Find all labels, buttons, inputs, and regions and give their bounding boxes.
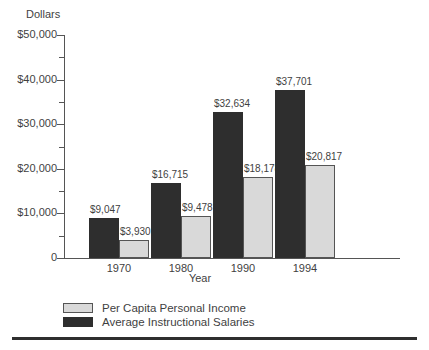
plot-area: $9,047$3,930$16,715$9,478$32,634$18,178$…: [64, 35, 400, 258]
y-tick-label: $30,000: [2, 117, 57, 129]
chart-legend: Per Capita Personal IncomeAverage Instru…: [63, 301, 255, 329]
legend-label: Average Instructional Salaries: [102, 316, 255, 328]
bar: [89, 218, 119, 258]
bar: [275, 90, 305, 258]
legend-item: Average Instructional Salaries: [63, 315, 255, 329]
legend-label: Per Capita Personal Income: [102, 302, 246, 314]
y-axis-title: Dollars: [26, 8, 60, 20]
bar-value-label: $16,715: [152, 169, 188, 180]
bar: [151, 183, 181, 258]
x-axis-title: Year: [0, 272, 400, 284]
bar: [119, 240, 149, 258]
bar-value-label: $37,701: [276, 76, 312, 87]
y-tick-label: $20,000: [2, 162, 57, 174]
bar: [243, 177, 273, 258]
y-tick-label: $40,000: [2, 73, 57, 85]
x-axis-line: [64, 258, 400, 259]
bar: [305, 165, 335, 258]
legend-swatch-dark: [63, 317, 93, 327]
bar-value-label: $20,817: [306, 151, 342, 162]
bar-value-label: $9,047: [90, 204, 121, 215]
y-tick-label: $50,000: [2, 28, 57, 40]
y-tick-label: $10,000: [2, 206, 57, 218]
legend-swatch-light: [63, 303, 93, 313]
bar: [181, 216, 211, 258]
bar: [213, 112, 243, 258]
bottom-rule: [12, 337, 417, 340]
y-tick-label: 0: [2, 251, 57, 263]
bar-chart: Dollars 0$10,000$20,000$30,000$40,000$50…: [0, 0, 429, 350]
bar-value-label: $9,478: [182, 202, 213, 213]
legend-item: Per Capita Personal Income: [63, 301, 255, 315]
bar-value-label: $3,930: [120, 226, 151, 237]
y-tick-major: [57, 258, 65, 259]
bar-value-label: $32,634: [214, 98, 250, 109]
